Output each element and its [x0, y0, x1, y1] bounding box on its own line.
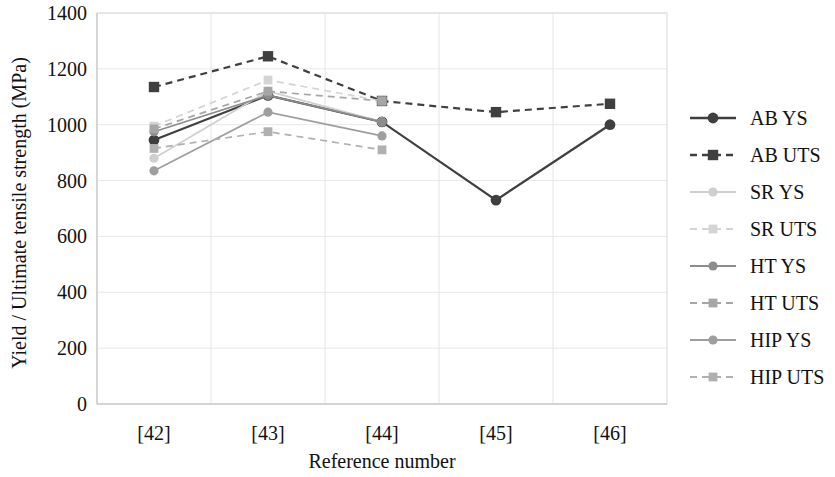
series-layer — [149, 51, 616, 205]
data-point-marker — [264, 76, 273, 85]
legend-item-ab-ys[interactable]: AB YS — [690, 107, 808, 129]
data-point-marker — [605, 99, 615, 109]
data-point-marker — [150, 125, 159, 134]
x-axis-title: Reference number — [308, 450, 455, 472]
data-point-marker — [150, 144, 159, 153]
series-ab-uts — [149, 51, 615, 117]
data-point-marker — [378, 97, 387, 106]
legend: AB YSAB UTSSR YSSR UTSHT YSHT UTSHIP YSH… — [690, 107, 824, 388]
legend-label: HIP YS — [750, 329, 811, 351]
x-tick-label: [43] — [251, 422, 284, 444]
data-point-marker — [377, 117, 386, 126]
data-point-marker — [149, 166, 158, 175]
data-point-marker — [149, 82, 159, 92]
plot-border — [97, 13, 667, 404]
data-point-marker — [378, 145, 387, 154]
legend-label: HT YS — [750, 255, 806, 277]
line-chart: 0200400600800100012001400 [42][43][44][4… — [0, 0, 835, 477]
plot-area-border — [97, 13, 667, 404]
legend-item-hip-uts[interactable]: HIP UTS — [690, 366, 824, 388]
legend-item-sr-uts[interactable]: SR UTS — [690, 218, 817, 240]
y-tick-label: 800 — [57, 170, 87, 192]
y-axis-ticks: 0200400600800100012001400 — [47, 2, 87, 415]
legend-label: SR UTS — [750, 218, 817, 240]
legend-marker — [708, 187, 717, 196]
data-point-marker — [491, 107, 501, 117]
y-tick-label: 400 — [57, 281, 87, 303]
y-tick-label: 1400 — [47, 2, 87, 24]
legend-marker — [709, 299, 718, 308]
x-tick-label: [42] — [137, 422, 170, 444]
legend-marker — [709, 225, 718, 234]
legend-marker — [708, 261, 717, 270]
legend-marker — [709, 373, 718, 382]
legend-label: HT UTS — [750, 292, 819, 314]
x-axis-ticks: [42][43][44][45][46] — [137, 422, 626, 444]
y-tick-label: 1000 — [47, 114, 87, 136]
legend-item-hip-ys[interactable]: HIP YS — [690, 329, 811, 351]
y-tick-label: 600 — [57, 225, 87, 247]
chart-container: 0200400600800100012001400 [42][43][44][4… — [0, 0, 835, 477]
legend-label: SR YS — [750, 181, 804, 203]
data-point-marker — [149, 154, 158, 163]
series-hip-ys — [149, 108, 386, 176]
y-axis-title: Yield / Ultimate tensile strength (MPa) — [8, 57, 31, 369]
data-point-marker — [264, 87, 273, 96]
legend-item-sr-ys[interactable]: SR YS — [690, 181, 804, 203]
y-tick-label: 1200 — [47, 58, 87, 80]
data-point-marker — [377, 131, 386, 140]
data-point-marker — [491, 195, 502, 206]
data-point-marker — [605, 119, 616, 130]
data-point-marker — [263, 108, 272, 117]
x-tick-label: [45] — [479, 422, 512, 444]
y-tick-label: 200 — [57, 337, 87, 359]
legend-label: AB UTS — [750, 144, 821, 166]
legend-item-ab-uts[interactable]: AB UTS — [690, 144, 821, 166]
legend-marker — [708, 113, 719, 124]
x-tick-label: [44] — [365, 422, 398, 444]
legend-label: HIP UTS — [750, 366, 824, 388]
legend-marker — [708, 335, 717, 344]
legend-label: AB YS — [750, 107, 808, 129]
legend-item-ht-ys[interactable]: HT YS — [690, 255, 806, 277]
data-point-marker — [263, 51, 273, 61]
legend-item-ht-uts[interactable]: HT UTS — [690, 292, 819, 314]
x-tick-label: [46] — [593, 422, 626, 444]
legend-marker — [708, 150, 718, 160]
plot-grid — [97, 13, 667, 404]
y-tick-label: 0 — [77, 393, 87, 415]
data-point-marker — [264, 127, 273, 136]
